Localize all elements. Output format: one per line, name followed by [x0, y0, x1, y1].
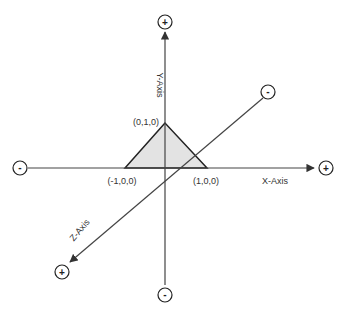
y-axis-label: Y-Axis [155, 72, 165, 98]
x-positive-circle: + [319, 161, 333, 175]
z-negative-circle: - [261, 85, 275, 99]
vertex-label-left: (-1,0,0) [107, 176, 136, 186]
vertex-label-right: (1,0,0) [193, 176, 219, 186]
x-negative-sign: - [18, 162, 21, 173]
vertex-label-top: (0,1,0) [133, 117, 159, 127]
z-axis-line [70, 98, 263, 262]
triangle [125, 123, 207, 168]
z-positive-sign: + [59, 267, 65, 278]
y-negative-sign: - [163, 289, 166, 300]
y-positive-circle: + [158, 15, 172, 29]
x-negative-circle: - [13, 161, 27, 175]
x-positive-sign: + [323, 163, 329, 174]
x-axis-label: X-Axis [262, 176, 289, 186]
z-negative-sign: - [266, 86, 269, 97]
z-positive-circle: + [55, 265, 69, 279]
y-negative-circle: - [158, 288, 172, 302]
z-axis-label: Z-Axis [68, 217, 92, 243]
coordinate-diagram: + - + - - + (0,1,0) (-1,0,0) (1,0,0) X-A… [0, 0, 344, 315]
y-positive-sign: + [162, 17, 168, 28]
